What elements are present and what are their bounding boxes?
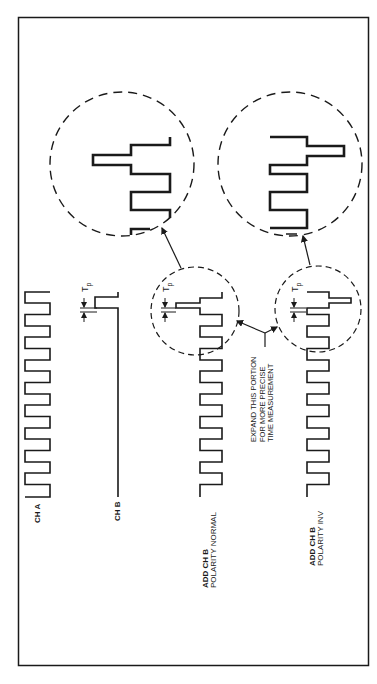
ch-a-label: CH A bbox=[34, 504, 42, 523]
normal-waveform bbox=[176, 292, 222, 497]
normal-label: ADD CH B POLARITY NORMAL bbox=[202, 512, 219, 588]
inv-expand-arrow bbox=[303, 236, 310, 265]
waveform-diagram bbox=[0, 0, 377, 684]
figure-frame bbox=[19, 18, 369, 666]
tp-marker-inv bbox=[290, 298, 306, 322]
expand-note-pointer bbox=[237, 321, 277, 347]
inv-label: ADD CH B POLARITY INV bbox=[309, 511, 326, 566]
tp-label-ch-b: Tp bbox=[80, 283, 92, 292]
ch-b-waveform bbox=[95, 292, 118, 497]
normal-expand-arrow bbox=[162, 228, 181, 268]
normal-magnified-waveform bbox=[93, 137, 170, 218]
inv-region-circle bbox=[275, 266, 361, 352]
normal-region-circle bbox=[151, 267, 239, 355]
tp-label-normal: Tp bbox=[161, 283, 173, 292]
tp-marker-normal bbox=[161, 298, 176, 322]
expand-note: EXPAND THIS PORTION FOR MORE PRECISE TIM… bbox=[250, 357, 276, 442]
inv-waveform bbox=[307, 292, 351, 497]
ch-b-label: CH B bbox=[114, 501, 122, 521]
inv-magnified-waveform bbox=[270, 137, 344, 228]
tp-label-inv: Tp bbox=[290, 283, 302, 292]
ch-a-waveform bbox=[25, 292, 50, 497]
